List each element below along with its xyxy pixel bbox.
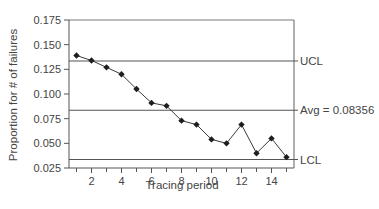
data-point-marker bbox=[73, 52, 79, 58]
plot-frame bbox=[69, 20, 294, 168]
y-tick-label: 0.100 bbox=[33, 88, 61, 100]
x-tick-label: 14 bbox=[265, 175, 277, 187]
data-point-marker bbox=[88, 57, 94, 63]
x-axis-title: Tracing period bbox=[145, 179, 218, 191]
x-tick-label: 12 bbox=[235, 175, 247, 187]
avg-label: Avg = 0.08356 bbox=[300, 104, 374, 116]
lcl-label: LCL bbox=[300, 154, 322, 166]
data-point-marker bbox=[103, 64, 109, 70]
y-axis: 0.0250.0500.0750.1000.1250.1500.175 bbox=[33, 14, 69, 174]
control-chart: 0.0250.0500.0750.1000.1250.1500.175 2468… bbox=[0, 0, 379, 209]
x-tick-label: 4 bbox=[118, 175, 124, 187]
y-tick-label: 0.175 bbox=[33, 14, 61, 26]
y-tick-label: 0.050 bbox=[33, 137, 61, 149]
y-tick-label: 0.150 bbox=[33, 39, 61, 51]
y-axis-title: Proportion for # of failures bbox=[7, 29, 19, 162]
series-line bbox=[77, 56, 287, 158]
y-tick-label: 0.075 bbox=[33, 113, 61, 125]
y-tick-label: 0.125 bbox=[33, 63, 61, 75]
ucl-label: UCL bbox=[300, 55, 324, 67]
data-series bbox=[73, 52, 289, 160]
x-tick-label: 2 bbox=[88, 175, 94, 187]
y-tick-label: 0.025 bbox=[33, 162, 61, 174]
